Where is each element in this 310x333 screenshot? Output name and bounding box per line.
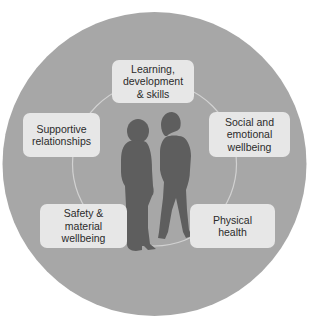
node-label-line: Social and: [225, 116, 274, 129]
diagram-graphics: [0, 0, 310, 333]
node-label-line: Physical: [213, 214, 252, 227]
node-safety-material-wellbeing: Safety & material wellbeing: [40, 204, 127, 248]
wellbeing-diagram: Learning, development & skills Social an…: [0, 0, 310, 333]
outer-circle: [3, 12, 307, 316]
node-label-line: & skills: [123, 88, 183, 101]
node-label-line: wellbeing: [225, 141, 274, 154]
node-label-line: development: [123, 75, 183, 88]
node-social-emotional-wellbeing: Social and emotional wellbeing: [209, 112, 290, 157]
node-label-line: Supportive: [32, 123, 91, 136]
node-label-line: wellbeing: [62, 232, 106, 245]
node-physical-health: Physical health: [190, 204, 275, 248]
node-learning-development-skills: Learning, development & skills: [112, 60, 194, 103]
node-supportive-relationships: Supportive relationships: [23, 113, 100, 157]
node-label-line: emotional: [225, 128, 274, 141]
node-label-line: Learning,: [123, 63, 183, 76]
node-label-line: material: [62, 220, 106, 233]
node-label-line: Safety &: [62, 207, 106, 220]
node-label-line: health: [213, 226, 252, 239]
node-label-line: relationships: [32, 135, 91, 148]
